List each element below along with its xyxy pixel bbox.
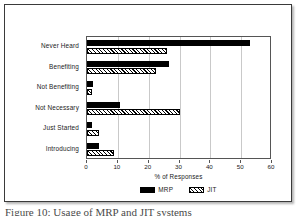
y-axis-label: Not Necessary: [35, 98, 79, 119]
bar-group: [87, 58, 270, 79]
bar-jit: [87, 109, 180, 115]
x-tick-label: 50: [237, 163, 244, 170]
bar-mrp: [87, 81, 93, 87]
x-tick-label: 20: [144, 163, 151, 170]
bar-group: [87, 119, 270, 140]
x-axis-title: % of Responses: [86, 173, 271, 180]
bar-group: [87, 78, 270, 99]
bar-group: [87, 140, 270, 161]
y-axis-label: Just Started: [43, 118, 79, 139]
bar-group: [87, 99, 270, 120]
x-tick-label: 40: [206, 163, 213, 170]
legend-swatch-jit: [189, 187, 204, 193]
legend-item-jit: JIT: [189, 186, 216, 193]
bar-jit: [87, 48, 167, 54]
chart-legend: MRP JIT: [86, 186, 271, 193]
bar-group: [87, 37, 270, 58]
y-axis-label: Not Benefiting: [37, 77, 79, 98]
plot-area: [86, 36, 271, 159]
figure-caption: Figure 10: Usage of MRP and JIT systems: [5, 206, 300, 216]
legend-label-mrp: MRP: [158, 186, 173, 193]
bar-jit: [87, 89, 92, 95]
x-axis-ticks: 0102030405060: [86, 160, 271, 172]
bar-mrp: [87, 102, 120, 108]
bar-jit: [87, 68, 156, 74]
legend-label-jit: JIT: [207, 186, 216, 193]
bar-mrp: [87, 122, 92, 128]
y-axis-labels: Never HeardBenefitingNot BenefitingNot N…: [5, 36, 83, 159]
figure-frame: Never HeardBenefitingNot BenefitingNot N…: [4, 4, 292, 202]
bar-jit: [87, 130, 99, 136]
x-tick-label: 30: [175, 163, 182, 170]
y-axis-label: Never Heard: [41, 36, 79, 57]
x-tick-label: 60: [268, 163, 275, 170]
y-axis-label: Benefiting: [49, 57, 79, 78]
x-tick-label: 10: [113, 163, 120, 170]
bar-chart: Never HeardBenefitingNot BenefitingNot N…: [5, 5, 293, 203]
bar-mrp: [87, 40, 250, 46]
x-tick-label: 0: [84, 163, 87, 170]
legend-swatch-mrp: [140, 187, 155, 193]
y-axis-label: Introducing: [46, 139, 79, 160]
legend-item-mrp: MRP: [140, 186, 173, 193]
bar-mrp: [87, 61, 169, 67]
bar-jit: [87, 150, 114, 156]
bar-mrp: [87, 143, 99, 149]
